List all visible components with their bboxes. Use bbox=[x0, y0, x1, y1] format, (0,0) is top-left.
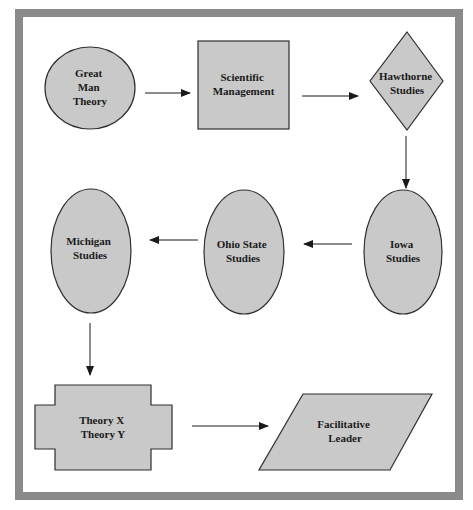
node-label-line: Man bbox=[78, 81, 100, 93]
node-iowa-studies: Iowa Studies bbox=[364, 190, 442, 314]
node-label-line: Ohio State bbox=[217, 238, 267, 250]
node-label-line: Scientific bbox=[220, 71, 263, 83]
node-label-line: Great bbox=[75, 67, 103, 79]
node-label-line: Theory X bbox=[79, 414, 124, 426]
node-label-line: Studies bbox=[73, 249, 108, 261]
node-theory-x-theory-y: Theory X Theory Y bbox=[35, 385, 172, 470]
node-label-line: Management bbox=[213, 85, 275, 97]
node-michigan-studies: Michigan Studies bbox=[51, 189, 131, 313]
node-label-line: Studies bbox=[226, 252, 261, 264]
node-scientific-management: Scientific Management bbox=[198, 41, 289, 129]
node-great-man-theory: Great Man Theory bbox=[45, 47, 135, 129]
node-label-line: Hawthorne bbox=[379, 70, 432, 82]
node-label-line: Iowa bbox=[390, 238, 414, 250]
node-label-line: Michigan bbox=[66, 235, 111, 247]
node-label-line: Theory bbox=[73, 95, 108, 107]
node-label-line: Studies bbox=[390, 84, 425, 96]
node-label-line: Studies bbox=[386, 252, 421, 264]
node-ohio-state-studies: Ohio State Studies bbox=[204, 190, 284, 314]
node-label-line: Leader bbox=[328, 432, 362, 444]
node-label-line: Theory Y bbox=[81, 428, 126, 440]
leadership-flowchart: Great Man Theory Scientific Management H… bbox=[0, 0, 473, 510]
node-label-line: Facilitative bbox=[317, 418, 370, 430]
